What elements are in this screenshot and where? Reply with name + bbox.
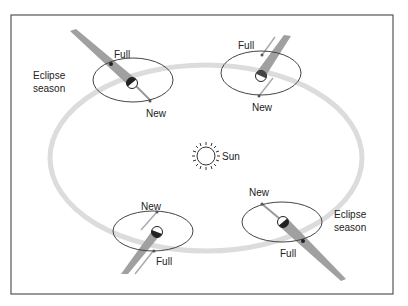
moon-full-dot <box>261 54 264 57</box>
new-label: New <box>141 201 162 212</box>
eclipse-season-label-line1: Eclipse <box>33 70 66 81</box>
eclipse-season-diagram: Sun Full New Eclipse season Full New <box>0 0 408 306</box>
sun-label: Sun <box>222 151 240 162</box>
new-label: New <box>146 108 167 119</box>
full-label: Full <box>114 49 130 60</box>
full-label: Full <box>156 256 172 267</box>
moon-full-dot <box>301 239 305 243</box>
new-label: New <box>249 187 270 198</box>
moon-new-dot <box>258 95 261 98</box>
moon-full-dot <box>153 250 156 253</box>
moon-full-dot <box>109 62 113 66</box>
new-label: New <box>252 102 273 113</box>
eclipse-season-label-line1: Eclipse <box>334 209 367 220</box>
eclipse-season-label-line2: season <box>334 222 366 233</box>
full-label: Full <box>238 40 254 51</box>
moon-new-dot <box>149 100 152 103</box>
eclipse-season-label-line2: season <box>33 83 65 94</box>
moon-new-dot <box>261 203 264 206</box>
full-label: Full <box>280 248 296 259</box>
